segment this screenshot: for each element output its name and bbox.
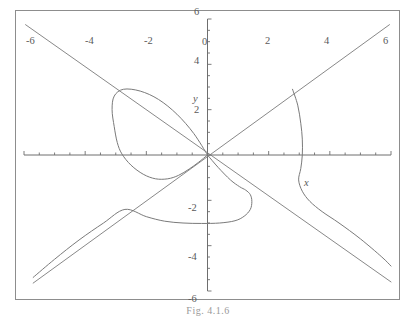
xtick-label: 2 (265, 36, 270, 47)
ytick-label: 2 (194, 105, 199, 116)
xtick-label: -4 (85, 36, 94, 47)
y-axis-label: y (193, 94, 198, 105)
figure-caption: Fig. 4.1.6 (0, 306, 416, 316)
ytick-label: 6 (194, 7, 199, 18)
curves-group (26, 25, 391, 283)
ytick-label: -2 (188, 203, 197, 214)
x-axis-label: x (304, 178, 309, 189)
ytick-label: 4 (194, 56, 199, 67)
xtick-label: -6 (26, 36, 35, 47)
figure-container: -6 -4 -2 0 2 4 6 6 4 2 -2 -4 -6 y x Fig.… (0, 0, 416, 321)
xtick-label: 4 (324, 36, 329, 47)
xtick-label: -2 (144, 36, 153, 47)
ytick-label: -4 (188, 252, 197, 263)
ytick-label: -6 (188, 294, 197, 305)
plot-frame: -6 -4 -2 0 2 4 6 6 4 2 -2 -4 -6 y x (15, 10, 400, 300)
plot-canvas (16, 11, 399, 299)
xtick-label-zero: 0 (202, 37, 207, 48)
xtick-label: 6 (383, 36, 388, 47)
curve-asymptote-ascending (33, 25, 389, 283)
